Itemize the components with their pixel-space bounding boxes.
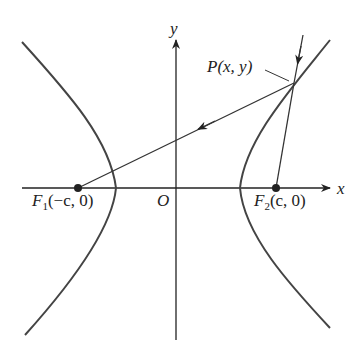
origin-label: O [157, 191, 169, 210]
hyperbola-diagram: y x O P(x, y) F1(−c, 0) F2(c, 0) [0, 0, 361, 350]
y-axis-label: y [168, 19, 178, 38]
x-axis-label: x [336, 179, 345, 198]
focus-f2-label: F2(c, 0) [253, 191, 306, 212]
arrow-incoming [298, 46, 302, 64]
line-p-to-f1 [78, 83, 294, 188]
line-p-to-f2 [276, 83, 294, 188]
focus-f1-label: F1(−c, 0) [31, 191, 93, 212]
arrow-toward-f1 [198, 121, 215, 129]
point-p-label: P(x, y) [206, 57, 253, 76]
hyperbola-right-branch [240, 40, 330, 328]
p-leader-line [265, 70, 289, 81]
